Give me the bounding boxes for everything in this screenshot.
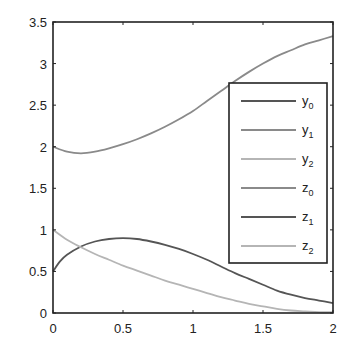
y-tick-label: 2 xyxy=(40,140,47,155)
x-tick-label: 0 xyxy=(49,321,56,336)
y-tick-label: 3 xyxy=(40,57,47,72)
x-tick-label: 1.5 xyxy=(254,321,272,336)
line-chart: 00.511.5200.511.522.533.5 y0y1y2z0z1z2 xyxy=(0,0,352,351)
y-tick-label: 1 xyxy=(40,223,47,238)
y-tick-label: 2.5 xyxy=(29,98,47,113)
y-tick-label: 3.5 xyxy=(29,15,47,30)
x-tick-label: 0.5 xyxy=(114,321,132,336)
legend: y0y1y2z0z1z2 xyxy=(229,83,327,263)
y-tick-label: 0.5 xyxy=(29,264,47,279)
x-tick-label: 2 xyxy=(329,321,336,336)
y-tick-label: 0 xyxy=(40,306,47,321)
y-tick-label: 1.5 xyxy=(29,181,47,196)
x-tick-label: 1 xyxy=(189,321,196,336)
